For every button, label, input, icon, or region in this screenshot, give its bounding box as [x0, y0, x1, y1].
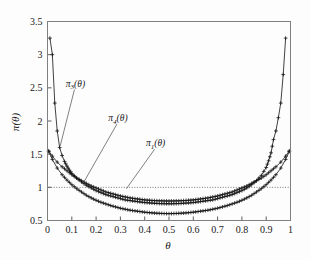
- y-tick-label: 2.5: [30, 82, 43, 93]
- y-tick-label: 3.5: [30, 16, 43, 27]
- plot-frame: [48, 22, 291, 221]
- figure-container: 00.10.20.30.40.50.60.70.80.910.511.522.5…: [0, 0, 311, 260]
- y-tick-label: 0.5: [30, 215, 43, 226]
- x-tick-label: 1: [288, 224, 293, 235]
- y-tick-label: 2: [38, 116, 43, 127]
- x-axis-title: θ: [165, 239, 171, 251]
- curve-annotations-layer: π3(θ)π4(θ)π1(θ): [60, 79, 165, 189]
- x-tick-label: 0.6: [187, 224, 200, 235]
- annotation-leader-line: [60, 90, 74, 147]
- x-tick-label: 0: [45, 224, 50, 235]
- y-tick-label: 3: [38, 49, 43, 60]
- x-tick-label: 0.4: [138, 224, 151, 235]
- x-tick-label: 0.7: [211, 224, 224, 235]
- x-tick-label: 0.5: [163, 224, 176, 235]
- y-tick-label: 1.5: [30, 149, 43, 160]
- x-tick-label: 0.8: [236, 224, 249, 235]
- curve-label-pi4: π4(θ): [108, 113, 127, 126]
- chart-plot: 00.10.20.30.40.50.60.70.80.910.511.522.5…: [0, 0, 311, 260]
- y-axis-title: π(θ): [9, 113, 22, 132]
- data-series-layer: [47, 36, 291, 215]
- y-tick-label: 1: [38, 182, 43, 193]
- x-tick-label: 0.1: [66, 224, 79, 235]
- axis-ticks-layer: [48, 22, 291, 221]
- x-tick-label: 0.2: [90, 224, 103, 235]
- x-tick-label: 0.9: [260, 224, 273, 235]
- curve-label-pi3: π3(θ): [66, 79, 85, 92]
- x-tick-label: 0.3: [114, 224, 127, 235]
- annotation-leader-line: [126, 149, 154, 188]
- annotation-leader-line: [83, 124, 117, 184]
- curve-label-pi1: π1(θ): [146, 138, 165, 151]
- series-pi_4: [47, 149, 291, 203]
